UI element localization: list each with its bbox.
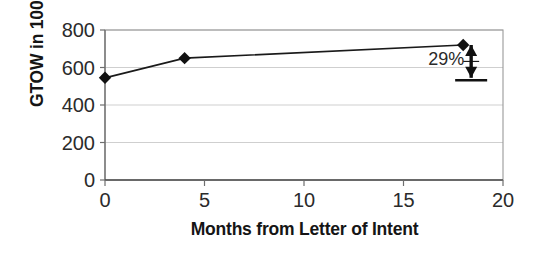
x-tick-label: 20 [492,189,514,211]
plot-area: 0200400600800 05101520 29% [0,0,534,257]
y-tick-label: 400 [62,94,95,116]
y-tick-label: 800 [62,19,95,41]
y-tick-label: 200 [62,132,95,154]
y-tick-label: 0 [84,169,95,191]
y-axis-ticks: 0200400600800 [62,19,105,191]
x-tick-label: 15 [392,189,414,211]
annotation-label-29-percent: 29% [428,49,464,69]
x-tick-label: 0 [99,189,110,211]
y-tick-label: 600 [62,57,95,79]
x-axis-ticks: 05101520 [99,180,514,211]
chart-figure: GTOW in 1000 lbs. Months from Letter of … [0,0,534,257]
x-tick-label: 10 [293,189,315,211]
x-tick-label: 5 [199,189,210,211]
